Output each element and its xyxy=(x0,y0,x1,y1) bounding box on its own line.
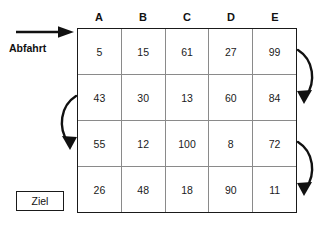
grid-cell[interactable]: 27 xyxy=(209,29,253,74)
grid-cell[interactable]: 61 xyxy=(166,29,210,74)
curved-arrow-icon xyxy=(292,44,332,108)
grid-cell[interactable]: 90 xyxy=(209,167,253,212)
table-row: 5 15 61 27 99 xyxy=(78,29,296,75)
departure-label: Abfahrt xyxy=(9,42,75,54)
number-grid: 5 15 61 27 99 43 30 13 60 84 55 12 100 8… xyxy=(77,28,297,213)
grid-cell[interactable]: 48 xyxy=(122,167,166,212)
diagram-canvas: Abfahrt A B C D E 5 15 61 27 99 43 30 13… xyxy=(0,0,333,226)
grid-cell[interactable]: 26 xyxy=(78,167,122,212)
grid-cell[interactable]: 11 xyxy=(253,167,296,212)
grid-cell[interactable]: 5 xyxy=(78,29,122,74)
grid-cell[interactable]: 12 xyxy=(122,121,166,166)
goal-box: Ziel xyxy=(16,191,64,211)
grid-cell[interactable]: 43 xyxy=(78,75,122,120)
grid-cell[interactable]: 55 xyxy=(78,121,122,166)
column-header-c: C xyxy=(165,8,209,26)
column-header-row: A B C D E xyxy=(77,8,297,26)
table-row: 26 48 18 90 11 xyxy=(78,167,296,212)
goal-label: Ziel xyxy=(32,195,49,207)
grid-cell[interactable]: 100 xyxy=(166,121,210,166)
column-header-b: B xyxy=(121,8,165,26)
table-row: 43 30 13 60 84 xyxy=(78,75,296,121)
arrow-right-icon xyxy=(14,24,76,40)
grid-cell[interactable]: 99 xyxy=(253,29,296,74)
grid-cell[interactable]: 15 xyxy=(122,29,166,74)
curved-arrow-icon xyxy=(292,136,332,200)
column-header-e: E xyxy=(253,8,297,26)
table-row: 55 12 100 8 72 xyxy=(78,121,296,167)
column-header-d: D xyxy=(209,8,253,26)
grid-cell[interactable]: 18 xyxy=(166,167,210,212)
grid-cell[interactable]: 84 xyxy=(253,75,296,120)
grid-cell[interactable]: 13 xyxy=(166,75,210,120)
grid-cell[interactable]: 8 xyxy=(209,121,253,166)
grid-cell[interactable]: 30 xyxy=(122,75,166,120)
column-header-a: A xyxy=(77,8,121,26)
grid-cell[interactable]: 72 xyxy=(253,121,296,166)
curved-arrow-icon xyxy=(42,90,82,154)
grid-cell[interactable]: 60 xyxy=(209,75,253,120)
